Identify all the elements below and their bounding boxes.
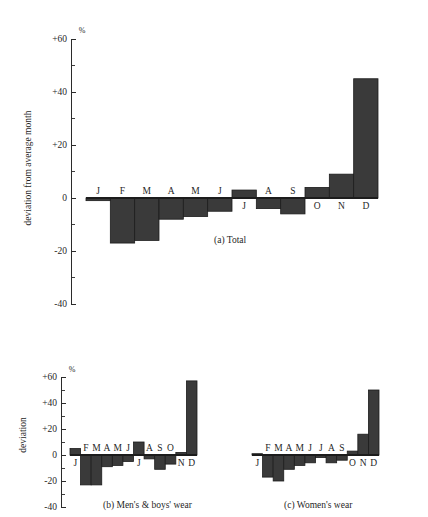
month-label-july: J (242, 201, 246, 211)
bar-march (135, 198, 159, 240)
bar-may (112, 455, 123, 465)
bar-october (305, 187, 329, 198)
y-axis-title: deviation from average month (23, 110, 33, 225)
panel-a: +60+40+200-20-40%deviation from average … (23, 26, 378, 309)
y-axis-tick-label: +20 (42, 424, 57, 434)
month-label-february: F (120, 186, 125, 196)
month-label-august: A (328, 443, 335, 453)
bar-june (208, 198, 232, 211)
month-label-january: J (96, 186, 100, 196)
month-label-december: D (188, 458, 195, 468)
y-axis-tick-label: 0 (52, 450, 57, 460)
month-label-november: N (178, 458, 185, 468)
y-axis-tick-label: -40 (44, 502, 57, 512)
month-label-may: M (191, 186, 200, 196)
month-label-july: J (319, 443, 323, 453)
bar-march (273, 455, 284, 481)
month-label-june: J (126, 443, 130, 453)
month-label-november: N (360, 458, 367, 468)
panel-caption: (b) Men's & boys' wear (103, 500, 193, 511)
bar-february (263, 455, 274, 477)
bar-may (183, 198, 207, 217)
y-axis-tick-label: +60 (42, 372, 57, 382)
month-label-december: D (362, 201, 369, 211)
bar-december (186, 381, 197, 455)
month-label-march: M (92, 443, 101, 453)
bar-november (329, 174, 353, 198)
y-axis-tick-label: 0 (62, 193, 67, 203)
month-label-may: M (113, 443, 122, 453)
month-label-november: N (338, 201, 345, 211)
y-axis-tick-label: +40 (42, 398, 57, 408)
bar-february (81, 455, 92, 485)
percent-unit-label: % (69, 365, 76, 374)
month-label-september: S (290, 186, 295, 196)
month-label-january: J (255, 458, 259, 468)
bar-june (123, 455, 134, 462)
y-axis-tick-label: -40 (54, 299, 67, 309)
bar-august (326, 455, 337, 463)
bar-january (70, 449, 81, 456)
month-label-april: A (104, 443, 111, 453)
bar-september (281, 198, 305, 214)
bar-april (102, 455, 113, 467)
month-label-january: J (73, 458, 77, 468)
month-label-march: M (274, 443, 283, 453)
bar-july (134, 442, 145, 455)
month-label-september: S (339, 443, 344, 453)
month-label-may: M (295, 443, 304, 453)
month-label-september: S (157, 443, 162, 453)
percent-unit-label: % (79, 26, 86, 35)
panel-caption: (a) Total (214, 235, 246, 246)
bar-october (165, 455, 176, 464)
month-label-october: O (314, 201, 321, 211)
bar-august (256, 198, 280, 209)
month-label-march: M (143, 186, 152, 196)
bar-november (358, 434, 369, 455)
y-axis-tick-label: +40 (52, 87, 67, 97)
bar-december (368, 390, 379, 455)
y-axis-title: deviation (18, 417, 28, 453)
month-label-december: D (370, 458, 377, 468)
bar-february (110, 198, 134, 243)
month-label-april: A (286, 443, 293, 453)
bar-july (232, 190, 256, 198)
bar-june (305, 455, 316, 463)
month-label-july: J (137, 458, 141, 468)
month-label-april: A (168, 186, 175, 196)
y-axis-tick-label: +60 (52, 34, 67, 44)
bar-october (347, 451, 358, 455)
bar-august (144, 455, 155, 459)
figure-root: +60+40+200-20-40%deviation from average … (0, 0, 428, 517)
bar-april (284, 455, 295, 469)
bar-may (294, 455, 305, 465)
panel-b: +60+40+200-20-40%deviationJFMAMJJASOND(b… (18, 365, 197, 512)
month-label-june: J (218, 186, 222, 196)
bar-april (159, 198, 183, 219)
bar-december (354, 79, 378, 198)
bar-chart-figure: +60+40+200-20-40%deviation from average … (0, 0, 428, 517)
bar-september (337, 455, 348, 460)
month-label-august: A (146, 443, 153, 453)
month-label-february: F (265, 443, 270, 453)
y-axis-tick-label: +20 (52, 140, 67, 150)
month-label-august: A (265, 186, 272, 196)
month-label-october: O (167, 443, 174, 453)
y-axis-tick-label: -20 (54, 246, 67, 256)
month-label-february: F (83, 443, 88, 453)
bar-september (155, 455, 166, 469)
month-label-october: O (349, 458, 356, 468)
panel-caption: (c) Women's wear (284, 500, 353, 511)
y-axis-tick-label: -20 (44, 476, 57, 486)
bar-march (91, 455, 102, 485)
month-label-june: J (308, 443, 312, 453)
panel-c: JFMAMJJASOND(c) Women's wear (252, 390, 379, 511)
